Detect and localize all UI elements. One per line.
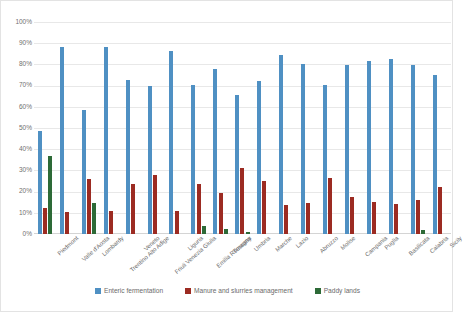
bar[interactable] xyxy=(438,187,442,234)
x-axis-tick-label: Umbria xyxy=(252,235,271,253)
legend-item[interactable]: Paddy lands xyxy=(315,287,360,294)
bar-group[interactable] xyxy=(232,22,254,234)
bar-group[interactable] xyxy=(297,22,319,234)
bar[interactable] xyxy=(175,211,179,234)
x-axis-tick-label: Abruzzo xyxy=(319,235,340,255)
legend-swatch-icon xyxy=(95,288,101,294)
x-axis-tick-label: Sicily xyxy=(449,235,463,249)
bar[interactable] xyxy=(394,204,398,234)
bar-group[interactable] xyxy=(78,22,100,234)
bar-group[interactable] xyxy=(275,22,297,234)
y-axis-tick-label: 100% xyxy=(2,19,32,26)
bar[interactable] xyxy=(323,85,327,234)
bar-group[interactable] xyxy=(122,22,144,234)
x-axis-tick-label: Piedmont xyxy=(56,235,79,257)
bar[interactable] xyxy=(82,110,86,234)
bar-group[interactable] xyxy=(34,22,56,234)
y-axis-tick-label: 80% xyxy=(2,61,32,68)
x-axis-tick-label: Basilicata xyxy=(408,235,432,257)
bar-group[interactable] xyxy=(253,22,275,234)
bar[interactable] xyxy=(350,197,354,234)
bar[interactable] xyxy=(65,212,69,234)
bar-group[interactable] xyxy=(363,22,385,234)
bar-chart: 100%90%80%70%60%50%40%30%20%10%0% Piedmo… xyxy=(0,0,453,312)
y-axis-tick-label: 50% xyxy=(2,125,32,132)
y-axis-tick-label: 40% xyxy=(2,146,32,153)
y-axis-tick-label: 90% xyxy=(2,40,32,47)
bar[interactable] xyxy=(109,211,113,234)
bar-group[interactable] xyxy=(407,22,429,234)
bar-group[interactable] xyxy=(166,22,188,234)
bar[interactable] xyxy=(235,95,239,234)
y-axis-tick-label: 30% xyxy=(2,167,32,174)
legend-item[interactable]: Manure and slurries management xyxy=(185,287,293,294)
bar-group[interactable] xyxy=(341,22,363,234)
bar[interactable] xyxy=(60,47,64,234)
bar-group[interactable] xyxy=(210,22,232,234)
x-axis-tick-label: Molise xyxy=(340,235,357,252)
legend-swatch-icon xyxy=(315,288,321,294)
bar[interactable] xyxy=(306,203,310,234)
bar[interactable] xyxy=(345,65,349,234)
bar[interactable] xyxy=(92,203,96,234)
legend-swatch-icon xyxy=(185,288,191,294)
bar[interactable] xyxy=(328,178,332,234)
x-axis-tick-label: Calabria xyxy=(429,235,450,255)
bar[interactable] xyxy=(43,208,47,235)
bar[interactable] xyxy=(262,181,266,234)
bar[interactable] xyxy=(213,69,217,234)
bar[interactable] xyxy=(202,226,206,234)
bar-group[interactable] xyxy=(188,22,210,234)
x-axis-tick-label: Tuscany xyxy=(231,235,252,255)
bar[interactable] xyxy=(284,205,288,234)
bar[interactable] xyxy=(131,184,135,234)
legend-label: Paddy lands xyxy=(324,287,360,294)
bar[interactable] xyxy=(87,179,91,234)
bar[interactable] xyxy=(411,65,415,234)
bar[interactable] xyxy=(153,175,157,234)
bar[interactable] xyxy=(240,168,244,234)
bar[interactable] xyxy=(301,64,305,234)
bar[interactable] xyxy=(433,75,437,234)
legend-label: Manure and slurries management xyxy=(194,287,293,294)
bar[interactable] xyxy=(389,59,393,234)
x-axis-tick-label: Lazio xyxy=(295,235,310,249)
bar[interactable] xyxy=(372,202,376,234)
bar-group[interactable] xyxy=(385,22,407,234)
legend-label: Enteric fermentation xyxy=(104,287,163,294)
bar[interactable] xyxy=(48,156,52,234)
bar[interactable] xyxy=(148,86,152,234)
legend-item[interactable]: Enteric fermentation xyxy=(95,287,163,294)
bar[interactable] xyxy=(191,85,195,234)
bar[interactable] xyxy=(257,81,261,234)
bar-group[interactable] xyxy=(429,22,451,234)
bar-group[interactable] xyxy=(100,22,122,234)
y-axis-tick-label: 0% xyxy=(2,231,32,238)
bar[interactable] xyxy=(197,184,201,234)
x-axis-tick-label: Marche xyxy=(275,235,294,253)
y-axis-tick-label: 60% xyxy=(2,104,32,111)
bar-group[interactable] xyxy=(56,22,78,234)
y-axis-tick-label: 10% xyxy=(2,210,32,217)
bar[interactable] xyxy=(126,80,130,234)
bar[interactable] xyxy=(416,200,420,234)
chart-legend: Enteric fermentationManure and slurries … xyxy=(1,287,454,294)
y-axis-tick-label: 70% xyxy=(2,82,32,89)
bar[interactable] xyxy=(367,61,371,234)
x-axis-labels: PiedmontValle d'AostaLombardyTrentino Al… xyxy=(34,235,451,283)
bar[interactable] xyxy=(38,131,42,234)
bar[interactable] xyxy=(224,229,228,234)
bar[interactable] xyxy=(421,230,425,234)
bar-group[interactable] xyxy=(319,22,341,234)
bar[interactable] xyxy=(219,193,223,234)
y-axis-tick-label: 20% xyxy=(2,188,32,195)
bar[interactable] xyxy=(104,47,108,234)
plot-area xyxy=(34,22,451,234)
bar[interactable] xyxy=(279,55,283,234)
bar-group[interactable] xyxy=(144,22,166,234)
y-axis: 100%90%80%70%60%50%40%30%20%10%0% xyxy=(1,22,32,234)
bar[interactable] xyxy=(169,51,173,234)
